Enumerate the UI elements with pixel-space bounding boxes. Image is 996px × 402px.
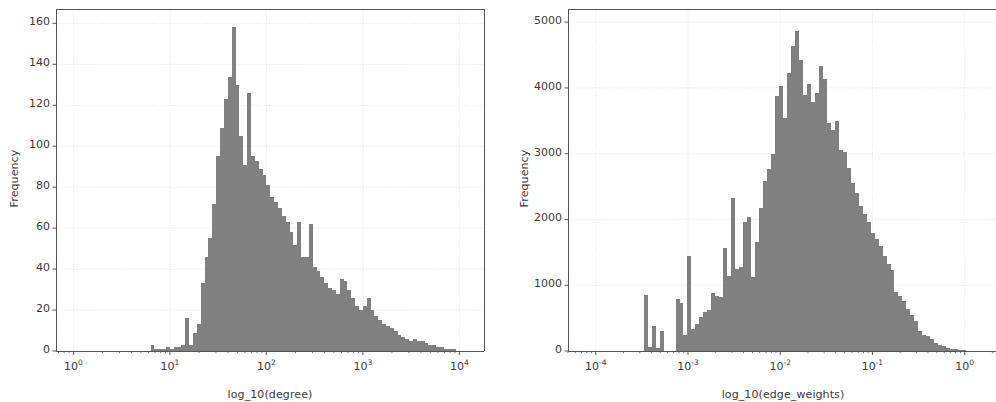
- edge-weights-histogram-xlabel: log_10(edge_weights): [722, 388, 845, 401]
- degree-histogram-ytick-label: 140: [29, 56, 50, 69]
- degree-histogram-ytick-label: 100: [29, 138, 50, 151]
- edge-weights-histogram-panel: Frequency log_10(edge_weights) 010002000…: [498, 0, 996, 397]
- degree-histogram-plot: [0, 0, 498, 397]
- edge-weights-histogram-ytick-label: 1000: [534, 277, 562, 290]
- degree-histogram-ytick-label: 0: [43, 343, 50, 356]
- edge-weights-histogram-ytick-label: 5000: [534, 14, 562, 27]
- edge-weights-histogram-xtick-label: 10-4: [574, 360, 618, 373]
- edge-weights-histogram-xtick-label: 10-3: [666, 360, 710, 373]
- degree-histogram-ytick-label: 40: [36, 261, 50, 274]
- edge-weights-histogram-xtick-label: 10-1: [850, 360, 894, 373]
- degree-histogram-ytick-label: 160: [29, 15, 50, 28]
- degree-histogram-xtick-label: 101: [148, 360, 192, 373]
- degree-histogram-ylabel: Frequency: [8, 8, 21, 350]
- edge-weights-histogram-ytick-label: 3000: [534, 146, 562, 159]
- degree-histogram-xtick-label: 100: [51, 360, 95, 373]
- degree-histogram-xlabel-wrap: log_10(degree): [56, 383, 484, 402]
- degree-histogram-ytick-label: 60: [36, 220, 50, 233]
- edge-weights-histogram-ytick-label: 4000: [534, 80, 562, 93]
- edge-weights-histogram-xlabel-wrap: log_10(edge_weights): [568, 383, 996, 402]
- degree-histogram-xtick-label: 102: [244, 360, 288, 373]
- edge-weights-histogram-ylabel: Frequency: [518, 8, 531, 350]
- degree-histogram-ytick-label: 20: [36, 302, 50, 315]
- degree-histogram-xtick-label: 103: [341, 360, 385, 373]
- edge-weights-histogram-xtick-label: 10-2: [758, 360, 802, 373]
- degree-histogram-panel: Frequency log_10(degree) 020406080100120…: [0, 0, 498, 397]
- degree-histogram-xtick-label: 104: [437, 360, 481, 373]
- edge-weights-histogram-plot: [498, 0, 996, 397]
- degree-histogram-xlabel: log_10(degree): [228, 388, 313, 401]
- edge-weights-histogram-ytick-label: 0: [555, 343, 562, 356]
- degree-histogram-ytick-label: 120: [29, 97, 50, 110]
- degree-histogram-ytick-label: 80: [36, 179, 50, 192]
- edge-weights-histogram-xtick-label: 100: [943, 360, 987, 373]
- edge-weights-histogram-ytick-label: 2000: [534, 211, 562, 224]
